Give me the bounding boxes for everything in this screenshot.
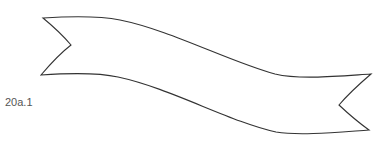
figure-label: 20a.1 — [5, 96, 33, 108]
ribbon-outline — [41, 17, 371, 134]
ribbon-banner-shape — [0, 0, 379, 162]
